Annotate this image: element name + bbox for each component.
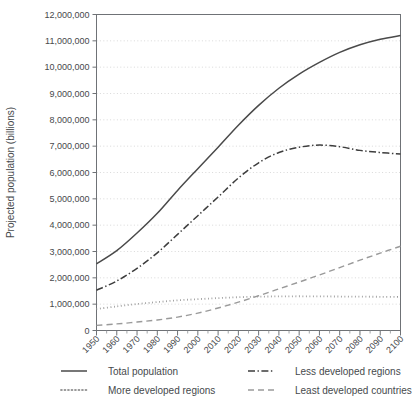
x-tick-label: 2020	[222, 334, 243, 355]
population-projection-chart: 01,000,0002,000,0003,000,0004,000,0005,0…	[0, 0, 413, 404]
x-tick-label: 2090	[364, 334, 385, 355]
chart-canvas: 01,000,0002,000,0003,000,0004,000,0005,0…	[0, 0, 413, 404]
series-line	[97, 145, 401, 290]
x-tick-label: 1990	[161, 334, 182, 355]
chart-legend: Total populationLess developed regionsMo…	[61, 366, 412, 396]
legend-label: More developed regions	[108, 385, 215, 396]
y-axis-title: Projected population (billions)	[5, 107, 16, 238]
legend-item: Less developed regions	[248, 366, 401, 377]
x-tick-label: 1970	[121, 334, 142, 355]
y-tick-label: 5,000,000	[49, 194, 89, 204]
y-tick-label: 3,000,000	[49, 247, 89, 257]
x-tick-label: 2070	[323, 334, 344, 355]
legend-label: Least developed countries	[295, 385, 412, 396]
x-tick-label: 1980	[141, 334, 162, 355]
y-tick-label: 7,000,000	[49, 141, 89, 151]
x-axis-tick-labels: 1950196019701980199020002010202020302040…	[80, 334, 405, 355]
series-line	[97, 296, 401, 309]
x-tick-label: 1960	[100, 334, 121, 355]
y-tick-label: 6,000,000	[49, 168, 89, 178]
y-tick-label: 11,000,000	[45, 36, 89, 46]
x-tick-label: 2000	[182, 334, 203, 355]
x-tick-label: 2030	[242, 334, 263, 355]
legend-label: Less developed regions	[295, 366, 401, 377]
legend-item: Least developed countries	[248, 385, 412, 396]
series-line	[97, 36, 401, 264]
legend-item: Total population	[61, 366, 178, 377]
x-tick-label: 2100	[384, 334, 405, 355]
y-tick-label: 10,000,000	[44, 62, 89, 72]
legend-item: More developed regions	[61, 385, 215, 396]
y-tick-label: 1,000,000	[49, 299, 89, 309]
y-tick-label: 4,000,000	[49, 220, 89, 230]
x-tick-label: 2080	[344, 334, 365, 355]
x-tick-label: 2040	[263, 334, 284, 355]
x-axis-ticks	[97, 331, 401, 336]
y-tick-label: 0	[84, 326, 89, 336]
y-tick-label: 2,000,000	[49, 273, 89, 283]
y-axis-tick-labels: 01,000,0002,000,0003,000,0004,000,0005,0…	[44, 10, 89, 336]
legend-label: Total population	[108, 366, 178, 377]
x-tick-label: 2050	[283, 334, 304, 355]
y-axis-ticks	[93, 15, 97, 331]
grid-lines	[97, 15, 401, 305]
x-tick-label: 2010	[202, 334, 223, 355]
x-tick-label: 1950	[80, 334, 101, 355]
data-series	[97, 36, 401, 326]
y-tick-label: 8,000,000	[49, 115, 89, 125]
y-tick-label: 9,000,000	[49, 89, 89, 99]
x-tick-label: 2060	[303, 334, 324, 355]
y-axis-title: Projected population (billions)	[5, 107, 16, 238]
series-line	[97, 246, 401, 325]
y-tick-label: 12,000,000	[44, 10, 89, 20]
